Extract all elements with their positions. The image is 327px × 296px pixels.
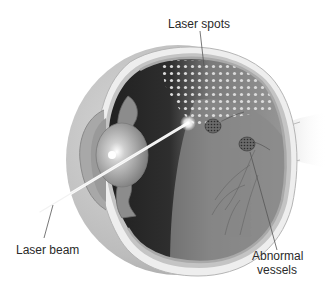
- label-laser-beam: Laser beam: [16, 243, 79, 257]
- label-abnormal-vessels-line2: vessels: [252, 263, 302, 277]
- label-laser-spots: Laser spots: [168, 17, 230, 31]
- vessel-cluster-upper: [205, 119, 221, 133]
- eye-laser-diagram: Laser spots Laser beam Abnormal vessels: [0, 0, 327, 296]
- lens: [96, 123, 148, 187]
- laser-impact-spot: [180, 115, 196, 131]
- label-abnormal-vessels: Abnormal vessels: [252, 249, 302, 277]
- vessel-cluster-lower: [239, 137, 255, 151]
- label-abnormal-vessels-line1: Abnormal: [252, 249, 302, 263]
